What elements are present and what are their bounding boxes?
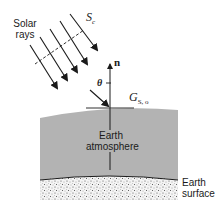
g-label: GS, o xyxy=(129,92,149,108)
g-subscript: S, o xyxy=(138,98,149,106)
sc-subscript: c xyxy=(92,18,95,26)
solar-rays-label-line1: Solar xyxy=(10,18,40,29)
atmosphere-label-line2: atmosphere xyxy=(86,141,136,152)
solar-rays-label: Solar rays xyxy=(10,18,40,40)
normal-label: n xyxy=(114,57,120,68)
g-symbol: G xyxy=(129,90,138,104)
sc-label: Sc xyxy=(86,12,95,28)
surface-label-line2: surface xyxy=(182,188,215,199)
surface-label-line1: Earth xyxy=(182,177,215,188)
incident-ray xyxy=(90,90,108,106)
surface-label: Earth surface xyxy=(182,177,215,199)
atmosphere-label-line1: Earth xyxy=(86,130,136,141)
earth-surface-ground xyxy=(40,176,178,200)
solar-rays-label-line2: rays xyxy=(10,29,40,40)
atmosphere-label: Earth atmosphere xyxy=(86,130,136,152)
theta-label: θ xyxy=(97,77,102,88)
